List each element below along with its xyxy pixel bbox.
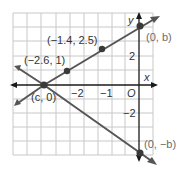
point-label: (c, 0) [31, 91, 56, 103]
y-tick-label: −2 [123, 107, 136, 119]
y-tick-label: 2 [129, 50, 135, 62]
x-tick-label: −1 [100, 87, 113, 99]
point-label: (−1.4, 2.5) [47, 34, 97, 46]
point-c-0 [41, 82, 48, 89]
x-axis-arrow-right-icon [151, 82, 158, 88]
point-neg1.4-2.5 [99, 46, 105, 52]
point-label: (−2.6, 1) [24, 54, 65, 66]
arrowhead-icon [150, 16, 160, 23]
y-axis-label: y [127, 14, 135, 26]
x-axis-label: x [143, 71, 150, 83]
x-tick-label: −2 [71, 87, 84, 99]
point-label: (0, b) [146, 31, 172, 43]
point-label: (0, −b) [144, 138, 176, 150]
point-0-negb [137, 150, 144, 157]
point-0-b [137, 23, 144, 30]
origin-label: O [127, 87, 136, 99]
point-neg2.6-1 [64, 68, 70, 74]
line-through-cb-ext [18, 68, 44, 85]
coordinate-graph: (−1.4, 2.5) (−2.6, 1) (c, 0) (0, b) (0, … [0, 0, 192, 169]
